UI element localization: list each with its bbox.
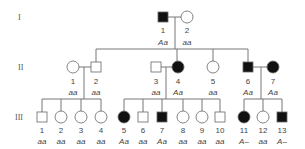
generation-label-II: II	[18, 63, 24, 72]
genotype-label: aa	[179, 137, 188, 146]
individual-III11	[238, 111, 250, 123]
genotype-label: aa	[259, 137, 268, 146]
individual-III4	[95, 111, 107, 123]
individual-I1	[158, 12, 168, 22]
individual-III8	[177, 111, 189, 123]
individual-number: 2	[185, 26, 190, 35]
individual-number: 7	[160, 126, 165, 135]
individual-number: 13	[278, 126, 287, 135]
genotype-label: Aa	[242, 88, 253, 97]
genotype-label: aa	[216, 137, 225, 146]
genotype-label: aa	[183, 38, 192, 47]
individual-number: 5	[122, 126, 127, 135]
individual-number: 1	[161, 26, 166, 35]
individual-number: 2	[94, 77, 99, 86]
individual-III7	[157, 112, 167, 122]
genotype-label: aa	[92, 88, 101, 97]
individual-I2	[181, 11, 193, 23]
individual-II5	[207, 61, 219, 73]
individual-III10	[215, 112, 225, 122]
individual-number: 5	[211, 77, 216, 86]
individual-number: 9	[200, 126, 205, 135]
individual-III3	[75, 111, 87, 123]
pedigree-chart: I II III 1 Aa 2 aa 1aa 2aa 3aa 4Aa 5aa 6…	[0, 0, 305, 149]
genotype-label: Aa	[156, 137, 167, 146]
individual-number: 8	[181, 126, 186, 135]
individual-number: 1	[40, 126, 45, 135]
generation-label-III: III	[15, 113, 23, 122]
individual-number: 3	[154, 77, 159, 86]
genotype-label: aa	[139, 137, 148, 146]
individual-II1	[67, 61, 79, 73]
genotype-label: aa	[209, 88, 218, 97]
individual-number: 4	[176, 77, 181, 86]
genotype-label: A–	[238, 137, 249, 146]
individual-III12	[257, 111, 269, 123]
individual-II3	[151, 62, 161, 72]
genotype-label: Aa	[118, 137, 129, 146]
individual-number: 10	[216, 126, 225, 135]
individual-number: 2	[59, 126, 64, 135]
individual-number: 7	[271, 77, 276, 86]
individual-II7	[267, 61, 279, 73]
genotype-label: aa	[38, 137, 47, 146]
individual-number: 11	[240, 126, 249, 135]
genotype-label: aa	[198, 137, 207, 146]
individual-III1	[37, 112, 47, 122]
individual-III2	[55, 111, 67, 123]
individual-III13	[277, 112, 287, 122]
genotype-label: aa	[57, 137, 66, 146]
genotype-label: aa	[152, 88, 161, 97]
genotype-label: aa	[77, 137, 86, 146]
genotype-label: A–	[276, 137, 287, 146]
individual-number: 6	[246, 77, 251, 86]
individual-III9	[196, 111, 208, 123]
individual-number: 3	[79, 126, 84, 135]
generation-label-I: I	[18, 13, 21, 22]
individual-III6	[138, 112, 148, 122]
individual-number: 12	[259, 126, 268, 135]
individual-number: 4	[99, 126, 104, 135]
individual-III5	[118, 111, 130, 123]
individual-II4	[172, 61, 184, 73]
individual-II6	[243, 62, 253, 72]
individual-II2	[91, 62, 101, 72]
genotype-label: aa	[69, 88, 78, 97]
genotype-label: aa	[97, 137, 106, 146]
genotype-label: Aa	[267, 88, 278, 97]
genotype-label: Aa	[157, 38, 168, 47]
individual-number: 1	[71, 77, 76, 86]
genotype-label: Aa	[172, 88, 183, 97]
individual-number: 6	[141, 126, 146, 135]
